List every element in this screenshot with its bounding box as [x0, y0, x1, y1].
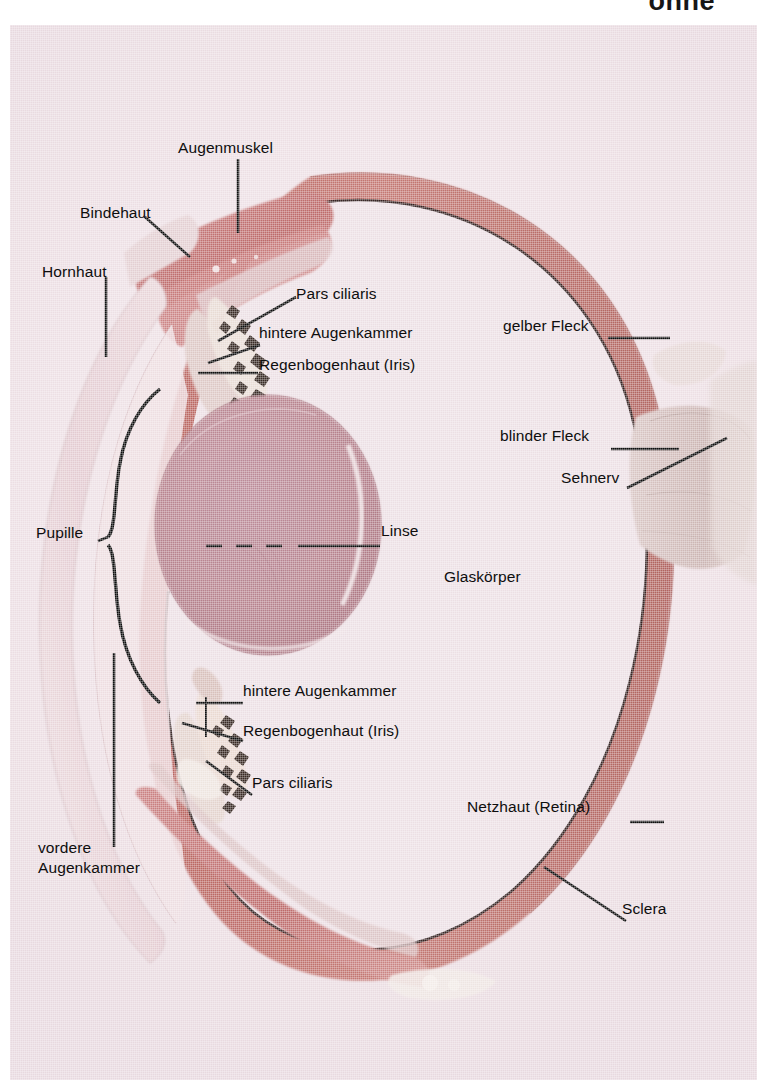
label-hornhaut: Hornhaut [42, 262, 107, 281]
label-sehnerv: Sehnerv [561, 468, 619, 487]
eye-cross-section-photograph [10, 25, 757, 1080]
label-vordere-augenkammer-line1: vordere [38, 838, 91, 857]
label-blinder-fleck: blinder Fleck [500, 426, 589, 445]
label-gelber-fleck: gelber Fleck [503, 316, 589, 335]
label-augenmuskel: Augenmuskel [178, 138, 273, 157]
lens [155, 395, 381, 655]
label-bindehaut: Bindehaut [80, 203, 151, 222]
label-pars-ciliaris-bottom: Pars ciliaris [252, 773, 333, 792]
label-regenbogenhaut-bottom: Regenbogenhaut (Iris) [243, 721, 399, 740]
label-netzhaut-retina: Netzhaut (Retina) [467, 797, 590, 816]
figure-page: ohne [0, 0, 757, 1080]
label-hintere-augenkammer-top: hintere Augenkammer [259, 323, 413, 342]
label-hintere-augenkammer-bottom: hintere Augenkammer [243, 681, 397, 700]
label-regenbogenhaut-top: Regenbogenhaut (Iris) [259, 355, 415, 374]
label-pupille: Pupille [36, 523, 83, 542]
eye-anatomy-artwork [10, 25, 757, 1080]
cropped-header-word: ohne [0, 0, 757, 16]
leader-sclera [544, 867, 626, 921]
label-vordere-augenkammer-line2: Augenkammer [38, 858, 140, 877]
label-sclera: Sclera [622, 899, 667, 918]
label-glaskoerper: Glaskörper [444, 567, 521, 586]
label-linse: Linse [381, 521, 419, 540]
label-pars-ciliaris-top: Pars ciliaris [296, 284, 377, 303]
